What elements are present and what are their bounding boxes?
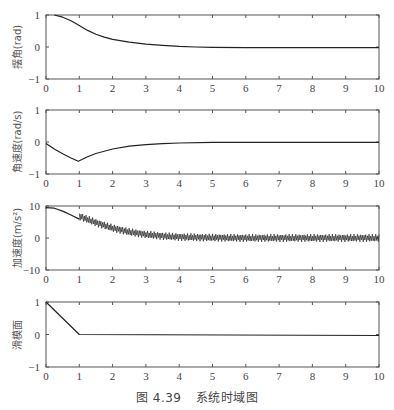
system-time-domain-figure: 012345678910−101摆角(rad)012345678910−101角… (0, 0, 394, 410)
x-tick-label: 7 (276, 370, 282, 382)
x-tick-label: 8 (310, 82, 316, 94)
x-tick-label: 9 (343, 273, 349, 285)
y-tick-label: −10 (23, 264, 41, 276)
data-line (46, 142, 379, 161)
x-tick-label: 7 (276, 273, 282, 285)
x-tick-label: 10 (374, 370, 386, 382)
x-tick-label: 5 (210, 273, 216, 285)
y-tick-label: −1 (28, 168, 40, 180)
x-tick-label: 7 (276, 82, 282, 94)
x-tick-label: 0 (43, 370, 49, 382)
x-tick-label: 0 (43, 273, 49, 285)
y-tick-label: 0 (35, 329, 41, 341)
x-tick-label: 1 (77, 273, 83, 285)
x-tick-label: 1 (77, 370, 83, 382)
data-line (54, 15, 379, 48)
y-tick-label: −1 (28, 361, 40, 373)
axes-frame (46, 206, 379, 270)
x-tick-label: 9 (343, 370, 349, 382)
x-tick-label: 10 (374, 82, 386, 94)
y-tick-label: 0 (35, 136, 41, 148)
x-tick-label: 3 (143, 177, 149, 189)
y-axis-label: 摆角(rad) (11, 25, 23, 69)
y-tick-label: 1 (35, 9, 41, 21)
data-line (46, 208, 79, 220)
y-tick-label: −1 (28, 73, 40, 85)
x-tick-label: 9 (343, 177, 349, 189)
y-tick-label: 0 (35, 232, 41, 244)
y-tick-label: 1 (35, 296, 41, 308)
y-axis-label: 加速度(m/s²) (11, 208, 23, 268)
x-tick-label: 8 (310, 177, 316, 189)
x-tick-label: 2 (110, 82, 116, 94)
x-tick-label: 8 (310, 370, 316, 382)
y-tick-label: 10 (29, 200, 41, 212)
x-tick-label: 10 (374, 177, 386, 189)
y-axis-label: 滑模面 (12, 320, 23, 350)
x-tick-label: 6 (243, 370, 249, 382)
caption-text: 系统时域图 (196, 391, 259, 405)
x-tick-label: 7 (276, 177, 282, 189)
subplot-4: 012345678910−101滑模面 (12, 296, 385, 382)
x-tick-label: 3 (143, 370, 149, 382)
x-tick-label: 6 (243, 273, 249, 285)
subplot-2: 012345678910−101角速度(rad/s) (11, 104, 385, 189)
y-tick-label: 1 (35, 104, 41, 116)
x-tick-label: 3 (143, 82, 149, 94)
x-tick-label: 2 (110, 273, 116, 285)
x-tick-label: 2 (110, 370, 116, 382)
x-tick-label: 8 (310, 273, 316, 285)
x-tick-label: 3 (143, 273, 149, 285)
x-tick-label: 1 (77, 82, 83, 94)
subplot-1: 012345678910−101摆角(rad) (11, 9, 385, 94)
x-tick-label: 4 (176, 273, 182, 285)
x-tick-label: 6 (243, 177, 249, 189)
figure-caption: 图 4.39系统时域图 (0, 388, 394, 405)
x-tick-label: 10 (374, 273, 386, 285)
x-tick-label: 0 (43, 177, 49, 189)
x-tick-label: 5 (210, 177, 216, 189)
data-line (79, 213, 379, 241)
data-line (46, 302, 379, 336)
x-tick-label: 0 (43, 82, 49, 94)
y-axis-label: 角速度(rad/s) (11, 110, 23, 173)
x-tick-label: 4 (176, 370, 182, 382)
x-tick-label: 4 (176, 82, 182, 94)
x-tick-label: 4 (176, 177, 182, 189)
x-tick-label: 6 (243, 82, 249, 94)
x-tick-label: 2 (110, 177, 116, 189)
subplot-3: 012345678910−10010加速度(m/s²) (11, 200, 385, 285)
y-tick-label: 0 (35, 41, 41, 53)
x-tick-label: 9 (343, 82, 349, 94)
x-tick-label: 5 (210, 82, 216, 94)
x-tick-label: 1 (77, 177, 83, 189)
caption-number: 图 4.39 (136, 391, 182, 405)
x-tick-label: 5 (210, 370, 216, 382)
